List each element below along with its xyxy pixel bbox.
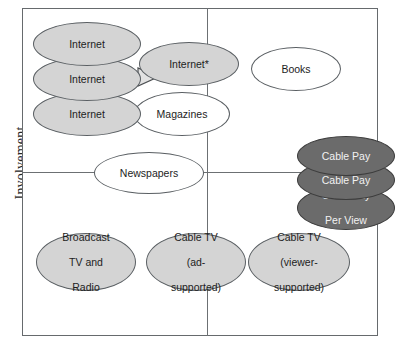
node-cable-viewer-line1: Cable TV	[270, 231, 328, 244]
node-broadcast-line3: Radio	[58, 281, 113, 294]
node-cable-pay-1-label: Cable Pay	[318, 150, 374, 163]
node-internet-star-label: Internet*	[165, 58, 213, 71]
node-broadcast-label: BroadcastTV andRadio	[54, 231, 117, 294]
node-broadcast-tv-and-radio[interactable]: BroadcastTV andRadio	[36, 233, 136, 291]
node-books-label: Books	[277, 63, 314, 76]
node-cable-tv-viewer-supported[interactable]: Cable TV(viewer-supported)	[248, 233, 350, 291]
node-internet-2-label: Internet	[65, 73, 109, 86]
node-cable-viewer-line2: (viewer-	[270, 256, 328, 269]
node-cable-tv-ad-supported[interactable]: Cable TV(ad-supported)	[146, 233, 246, 291]
node-newspapers-label: Newspapers	[116, 167, 182, 180]
node-magazines[interactable]: Magazines	[134, 92, 230, 136]
node-broadcast-line2: TV and	[58, 256, 113, 269]
node-newspapers[interactable]: Newspapers	[94, 152, 204, 194]
node-magazines-label: Magazines	[153, 108, 212, 121]
node-broadcast-line1: Broadcast	[58, 231, 113, 244]
node-cable-viewer-label: Cable TV(viewer-supported)	[266, 231, 332, 294]
node-cable-ad-line1: Cable TV	[167, 231, 225, 244]
node-cable-viewer-line3: supported)	[270, 281, 328, 294]
node-internet-3-label: Internet	[65, 108, 109, 121]
node-cable-ad-label: Cable TV(ad-supported)	[163, 231, 229, 294]
node-cable-pay-per-view-line2: Per View	[318, 214, 374, 227]
node-cable-ad-line2: (ad-	[167, 256, 225, 269]
node-cable-pay-1[interactable]: Cable Pay	[297, 136, 395, 176]
node-cable-ad-line3: supported)	[167, 281, 225, 294]
node-books[interactable]: Books	[251, 47, 341, 91]
node-internet-1[interactable]: Internet	[33, 22, 141, 66]
node-internet-star[interactable]: Internet*	[139, 42, 239, 86]
node-internet-1-label: Internet	[65, 38, 109, 51]
